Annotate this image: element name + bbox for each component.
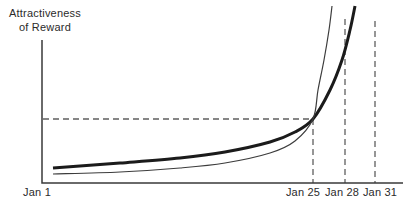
- x-tick-jan-1: Jan 1: [23, 186, 51, 198]
- x-tick-jan-28: Jan 28: [325, 186, 359, 198]
- x-axis-tick-labels: Jan 1Jan 25Jan 28Jan 31: [0, 186, 406, 200]
- x-tick-jan-31: Jan 31: [363, 186, 397, 198]
- x-tick-jan-25: Jan 25: [286, 186, 320, 198]
- chart-canvas: [0, 0, 406, 210]
- hyperbolic-discounting-figure: Attractiveness of Reward Jan 1Jan 25Jan …: [0, 0, 406, 210]
- axes: [42, 40, 403, 183]
- smaller-sooner-reward-curve: [53, 6, 332, 174]
- larger-later-reward-curve: [53, 6, 355, 168]
